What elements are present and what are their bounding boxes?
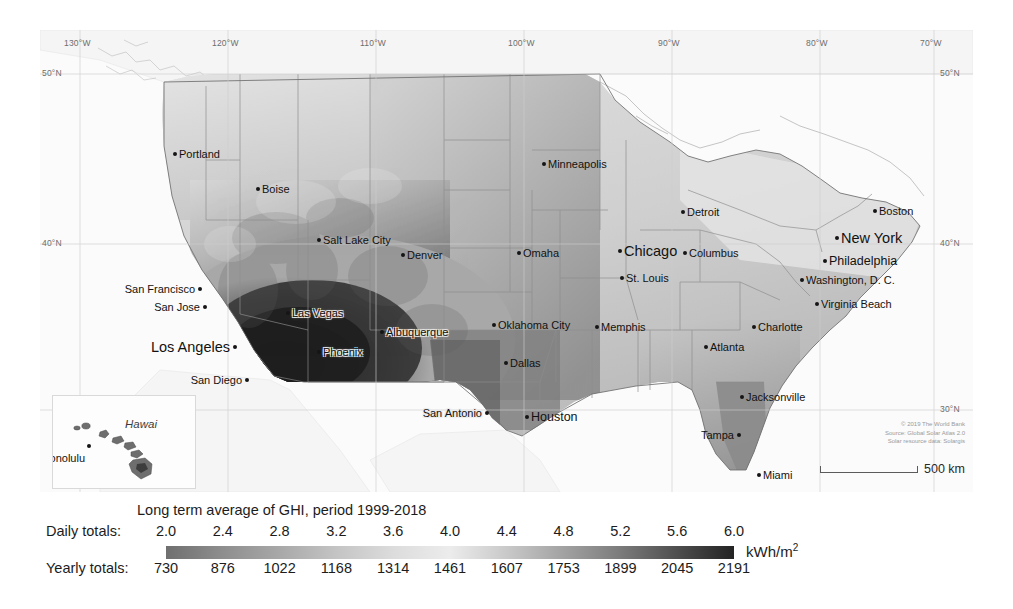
lat-label-left-40n: 40°N: [42, 238, 62, 248]
scale-bar-line: [820, 466, 918, 473]
daily-tick-value: 4.0: [440, 523, 460, 539]
attribution-block: © 2019 The World Bank Source: Global Sol…: [885, 420, 965, 446]
yearly-totals-row: Yearly totals: 7308761022116813141461160…: [0, 560, 1013, 580]
hawaii-inset-title: Hawai: [125, 418, 157, 430]
map-panel[interactable]: 130°W 120°W 110°W 100°W 90°W 80°W 70°W 5…: [40, 30, 973, 492]
lon-label-130w: 130°W: [64, 38, 91, 48]
yearly-tick-value: 876: [211, 560, 235, 576]
yearly-tick-value: 1022: [263, 560, 295, 576]
daily-tick-value: 5.2: [610, 523, 630, 539]
lon-label-70w: 70°W: [920, 38, 942, 48]
unit-exponent: 2: [793, 542, 799, 553]
lon-label-120w: 120°W: [212, 38, 239, 48]
daily-tick-value: 5.6: [667, 523, 687, 539]
daily-totals-row: Daily totals: 2.02.42.83.23.64.04.44.85.…: [0, 523, 1013, 543]
legend: Long term average of GHI, period 1999-20…: [0, 497, 1013, 609]
yearly-tick-value: 2045: [661, 560, 693, 576]
attribution-line-3: Solar resource data: Solargis: [885, 437, 965, 446]
lat-label-right-30n: 30°N: [940, 404, 960, 414]
lat-label-right-50n: 50°N: [940, 68, 960, 78]
hawaii-inset[interactable]: Hawai Honolulu: [52, 395, 196, 489]
daily-tick-value: 2.0: [156, 523, 176, 539]
daily-tick-value: 3.2: [326, 523, 346, 539]
lon-label-100w: 100°W: [508, 38, 535, 48]
yearly-tick-value: 1314: [377, 560, 409, 576]
lon-label-110w: 110°W: [360, 38, 386, 48]
daily-tick-value: 4.4: [497, 523, 517, 539]
unit-text: kWh/m: [746, 543, 793, 560]
color-scale-bar: [166, 546, 734, 559]
yearly-tick-value: 1753: [547, 560, 579, 576]
daily-tick-value: 4.8: [554, 523, 574, 539]
unit-label: kWh/m2: [746, 542, 798, 560]
hawaii-islands: [53, 396, 195, 488]
yearly-tick-value: 730: [154, 560, 178, 576]
yearly-tick-value: 1899: [604, 560, 636, 576]
yearly-tick-value: 2191: [718, 560, 750, 576]
yearly-totals-label: Yearly totals:: [46, 560, 128, 576]
scale-bar: 500 km: [820, 462, 965, 476]
attribution-line-2: Source: Global Solar Atlas 2.0: [885, 429, 965, 438]
lon-label-80w: 80°W: [806, 38, 828, 48]
lon-label-90w: 90°W: [658, 38, 680, 48]
yearly-tick-value: 1461: [434, 560, 466, 576]
daily-tick-value: 6.0: [724, 523, 744, 539]
attribution-line-1: © 2019 The World Bank: [885, 420, 965, 429]
daily-tick-value: 3.6: [383, 523, 403, 539]
scale-bar-label: 500 km: [924, 462, 965, 476]
lat-label-right-40n: 40°N: [940, 238, 960, 248]
lat-label-left-50n: 50°N: [42, 68, 62, 78]
legend-title: Long term average of GHI, period 1999-20…: [137, 502, 426, 518]
daily-tick-value: 2.4: [213, 523, 233, 539]
daily-totals-label: Daily totals:: [46, 523, 121, 539]
yearly-tick-value: 1168: [321, 560, 352, 576]
daily-tick-value: 2.8: [270, 523, 290, 539]
yearly-tick-value: 1607: [491, 560, 523, 576]
